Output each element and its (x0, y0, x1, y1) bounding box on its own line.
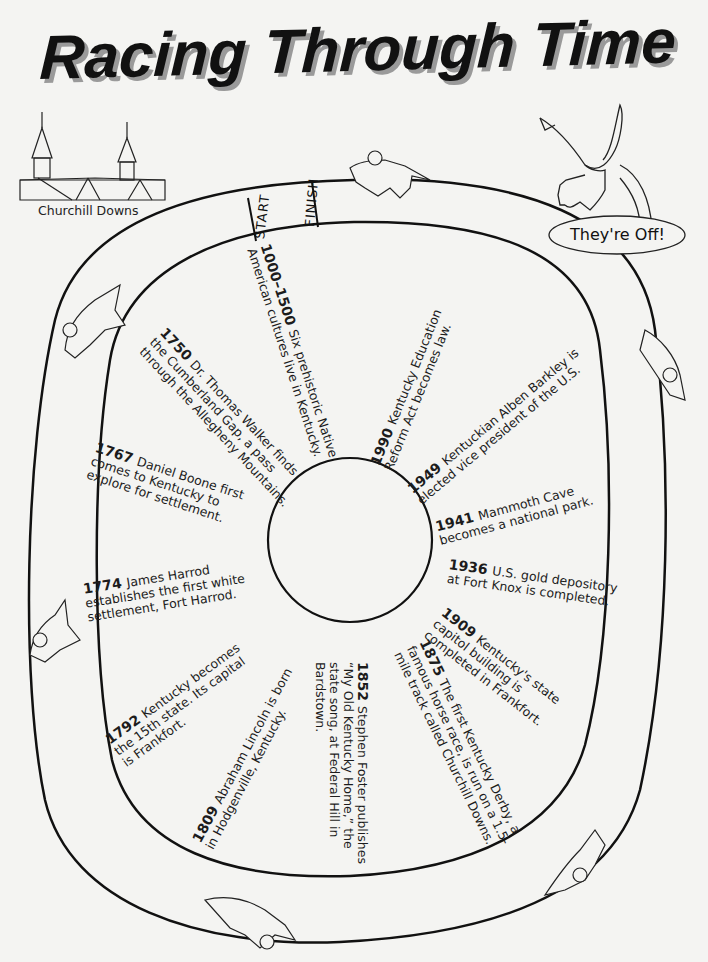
horse-jockey-left-upper (63, 285, 125, 358)
churchill-downs-caption: Churchill Downs (38, 203, 139, 218)
horse-jockey-right-lower (545, 830, 605, 895)
event-1852: 1852Stephen Foster publishes “My Old Ken… (313, 662, 370, 864)
speech-bubble-text: They're Off! (570, 225, 665, 244)
churchill-downs-drawing (20, 112, 165, 200)
horse-jockey-top (350, 151, 430, 198)
winged-horse-drawing (540, 105, 622, 210)
horse-jockey-left-lower (30, 600, 80, 662)
horse-jockey-right-upper (640, 330, 685, 400)
